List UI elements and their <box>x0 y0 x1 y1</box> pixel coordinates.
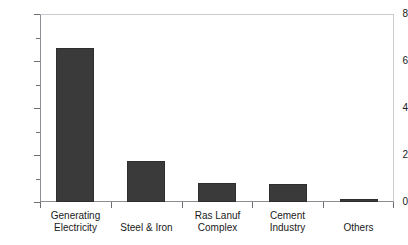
y-tick-minor <box>36 179 40 180</box>
y-tick-minor <box>36 85 40 86</box>
y-tick-label: 2 <box>382 150 408 160</box>
x-tick-label: Steel & Iron <box>111 222 182 234</box>
y-tick-label: 0 <box>382 197 408 207</box>
x-tick-label: Generating Electricity <box>40 210 111 234</box>
x-tick <box>323 202 324 208</box>
bar <box>340 199 378 202</box>
x-tick-label: Others <box>323 222 394 234</box>
y-tick-major <box>34 155 40 156</box>
x-tick <box>111 202 112 208</box>
y-tick-major <box>34 61 40 62</box>
bar <box>198 183 236 202</box>
y-tick-minor <box>36 38 40 39</box>
y-tick-label: 6 <box>382 56 408 66</box>
x-tick <box>40 202 41 208</box>
x-tick <box>252 202 253 208</box>
x-tick <box>182 202 183 208</box>
chart-title-clipped <box>0 0 408 9</box>
y-tick-major <box>34 14 40 15</box>
y-tick-major <box>34 108 40 109</box>
x-tick <box>393 202 394 208</box>
y-tick-label: 4 <box>382 103 408 113</box>
bar <box>127 161 165 202</box>
y-tick-minor <box>36 132 40 133</box>
bar <box>269 184 307 202</box>
bar <box>56 48 94 202</box>
x-tick-label: Ras Lanuf Complex <box>182 210 253 234</box>
bar-chart-figure: Million cm/d 86420 Generating Electricit… <box>0 0 408 245</box>
y-tick-label: 8 <box>382 9 408 19</box>
x-tick-label: Cement Industry <box>252 210 323 234</box>
